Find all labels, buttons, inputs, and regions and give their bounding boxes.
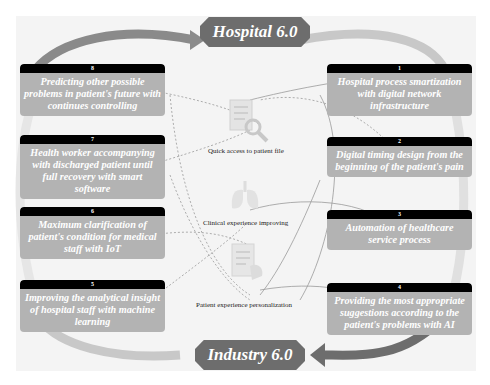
step-text: Health worker accompanying with discharg… xyxy=(20,144,165,199)
hospital-hub: Hospital 6.0 xyxy=(200,17,310,47)
step-number: 3 xyxy=(327,210,472,219)
step-number: 2 xyxy=(327,137,472,146)
step-text: Automation of healthcare service process xyxy=(327,219,472,250)
step-text: Hospital process smartization with digit… xyxy=(327,73,472,116)
step-text: Providing the most appropriate suggestio… xyxy=(327,292,472,335)
step-number: 4 xyxy=(327,283,472,292)
step-text: Digital timing design from the beginning… xyxy=(327,146,472,177)
hospital-hub-label: Hospital 6.0 xyxy=(212,22,297,41)
step-text: Maximum clarification of patient's condi… xyxy=(20,216,165,259)
step-number: 5 xyxy=(20,280,165,289)
step-card-5: 5 Improving the analytical insight of ho… xyxy=(20,280,165,332)
step-text: Improving the analytical insight of hosp… xyxy=(20,289,165,332)
center-label-1: Quick access to patient file xyxy=(208,147,284,155)
industry-hub: Industry 6.0 xyxy=(195,340,305,370)
step-number: 7 xyxy=(20,135,165,144)
step-number: 6 xyxy=(20,207,165,216)
industry-hub-label: Industry 6.0 xyxy=(207,345,292,364)
clipboard-hand-icon xyxy=(228,240,268,282)
step-card-7: 7 Health worker accompanying with discha… xyxy=(20,135,165,199)
step-number: 8 xyxy=(20,64,165,73)
step-card-8: 8 Predicting other possible problems in … xyxy=(20,64,165,116)
step-card-4: 4 Providing the most appropriate suggest… xyxy=(327,283,472,335)
step-text: Predicting other possible problems in pa… xyxy=(20,73,165,116)
patient-file-search-icon xyxy=(225,95,275,145)
lungs-icon xyxy=(228,178,262,212)
step-card-6: 6 Maximum clarification of patient's con… xyxy=(20,207,165,259)
step-number: 1 xyxy=(327,64,472,73)
step-card-3: 3 Automation of healthcare service proce… xyxy=(327,210,472,250)
center-label-2: Clinical experience improving xyxy=(203,219,288,227)
center-label-3: Patient experience personalization xyxy=(196,301,292,309)
step-card-2: 2 Digital timing design from the beginni… xyxy=(327,137,472,177)
step-card-1: 1 Hospital process smartization with dig… xyxy=(327,64,472,116)
